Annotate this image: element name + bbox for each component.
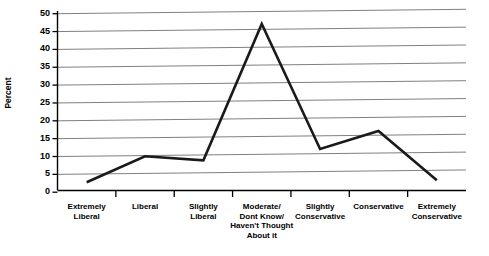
gridline — [58, 63, 467, 67]
y-axis-tick-label: 40 — [24, 44, 50, 53]
gridline — [58, 45, 467, 49]
chart-container: Percent 05101520253035404550 Extremely L… — [0, 0, 489, 256]
y-axis-tick-label: 45 — [24, 27, 50, 36]
gridlines-group — [53, 9, 467, 192]
gridline — [58, 134, 467, 138]
x-axis-tick-label: Extremely Conservative — [400, 202, 474, 221]
gridline — [58, 170, 467, 174]
y-axis-tick-label: 5 — [24, 169, 50, 178]
gridline — [58, 116, 467, 120]
y-axis-tick-label: 10 — [24, 152, 50, 161]
gridline — [58, 99, 467, 103]
gridline — [58, 9, 467, 13]
y-axis-tick-label: 20 — [24, 116, 50, 125]
y-axis-tick-label: 35 — [24, 62, 50, 71]
y-axis-tick-label: 30 — [24, 80, 50, 89]
y-axis-tick-label: 15 — [24, 134, 50, 143]
x-axis-ticks-group — [116, 191, 408, 198]
y-axis-tick-label: 25 — [24, 98, 50, 107]
data-series-line — [87, 24, 437, 182]
y-axis-tick-label: 0 — [24, 187, 50, 196]
y-axis-tick-label: 50 — [24, 9, 50, 18]
gridline — [58, 81, 467, 85]
gridline — [58, 27, 467, 31]
